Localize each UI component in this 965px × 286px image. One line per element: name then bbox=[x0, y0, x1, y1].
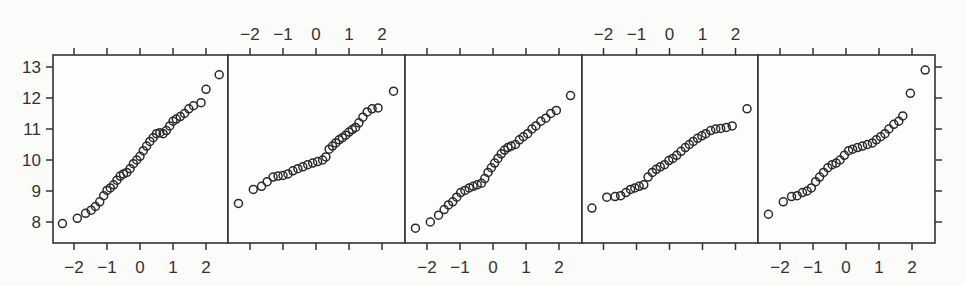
x-tick-label: −1 bbox=[273, 25, 292, 44]
panel-1: −2−1012 bbox=[53, 48, 228, 277]
y-tick-label: 11 bbox=[23, 120, 41, 139]
panel-5: −2−1012 bbox=[758, 48, 935, 277]
x-tick-label: 0 bbox=[311, 25, 320, 44]
x-tick-label: 1 bbox=[344, 25, 353, 44]
panel-frame bbox=[228, 55, 405, 243]
x-tick-label: 0 bbox=[135, 258, 144, 277]
y-tick-label: 12 bbox=[22, 89, 41, 108]
qq-plot-lattice: −2−1012−2−1012−2−1012−2−1012−2−1012 8910… bbox=[0, 0, 965, 286]
x-tick-label: 1 bbox=[168, 258, 177, 277]
panel-frame bbox=[582, 55, 758, 243]
x-tick-label: 0 bbox=[488, 258, 497, 277]
panel-frame bbox=[405, 55, 582, 243]
x-tick-label: −1 bbox=[97, 258, 116, 277]
x-tick-label: 2 bbox=[201, 258, 210, 277]
x-tick-label: 2 bbox=[731, 25, 740, 44]
panel-2: −2−1012 bbox=[228, 25, 405, 250]
y-tick-label: 13 bbox=[22, 58, 41, 77]
x-tick-label: 1 bbox=[521, 258, 530, 277]
x-tick-label: −2 bbox=[594, 25, 613, 44]
x-tick-label: −1 bbox=[627, 25, 646, 44]
panel-3: −2−1012 bbox=[405, 48, 582, 277]
y-tick-label: 8 bbox=[32, 213, 41, 232]
x-tick-label: −1 bbox=[803, 258, 822, 277]
x-tick-label: 1 bbox=[698, 25, 707, 44]
x-tick-label: −2 bbox=[770, 258, 789, 277]
x-tick-label: 0 bbox=[841, 258, 850, 277]
x-tick-label: −2 bbox=[417, 258, 436, 277]
y-tick-label: 10 bbox=[22, 151, 41, 170]
panels-group: −2−1012−2−1012−2−1012−2−1012−2−1012 bbox=[53, 25, 935, 277]
panel-4: −2−1012 bbox=[582, 25, 758, 250]
y-tick-label: 9 bbox=[32, 182, 41, 201]
x-tick-label: −2 bbox=[240, 25, 259, 44]
x-tick-label: 2 bbox=[377, 25, 386, 44]
x-tick-label: 1 bbox=[874, 258, 883, 277]
x-tick-label: 2 bbox=[907, 258, 916, 277]
x-tick-label: −1 bbox=[450, 258, 469, 277]
x-tick-label: 0 bbox=[665, 25, 674, 44]
x-tick-label: 2 bbox=[554, 258, 563, 277]
panel-frame bbox=[758, 55, 935, 243]
x-tick-label: −2 bbox=[64, 258, 83, 277]
